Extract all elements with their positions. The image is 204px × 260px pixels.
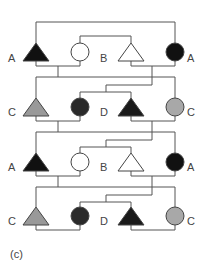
g2-dark-circle-circle-icon <box>71 98 89 116</box>
g1-open-circle-circle-icon <box>71 43 89 61</box>
label-g3-a-right: A <box>187 162 194 173</box>
label-g4-d: D <box>100 216 108 227</box>
label-g1-a-left: A <box>8 53 15 64</box>
g1-a-left-triangle-icon <box>23 43 49 61</box>
g3-b-triangle-triangle-icon <box>118 153 144 171</box>
label-g4-c-left: C <box>8 216 16 227</box>
g3-a-left-triangle-icon <box>23 153 49 171</box>
label-g2-c-left: C <box>8 107 16 118</box>
label-g1-b: B <box>100 53 107 64</box>
g4-d-triangle-triangle-icon <box>118 207 144 225</box>
g3-a-right-circle-icon <box>166 153 184 171</box>
g1-a-right-circle-icon <box>166 43 184 61</box>
g2-c-right-circle-icon <box>166 98 184 116</box>
label-g3-b: B <box>100 162 107 173</box>
g4-c-right-circle-icon <box>166 207 184 225</box>
g4-c-left-triangle-icon <box>23 207 49 225</box>
label-g1-a-right: A <box>187 53 194 64</box>
figure-caption: (c) <box>10 248 23 260</box>
individuals <box>23 43 184 225</box>
g2-c-left-triangle-icon <box>23 98 49 116</box>
g1-b-triangle-triangle-icon <box>118 43 144 61</box>
g4-dark-circle-circle-icon <box>71 207 89 225</box>
label-g2-d: D <box>100 107 108 118</box>
label-g2-c-right: C <box>187 107 195 118</box>
g3-open-circle-circle-icon <box>71 153 89 171</box>
label-g3-a-left: A <box>8 162 15 173</box>
g2-d-triangle-triangle-icon <box>118 98 144 116</box>
label-g4-c-right: C <box>187 216 195 227</box>
